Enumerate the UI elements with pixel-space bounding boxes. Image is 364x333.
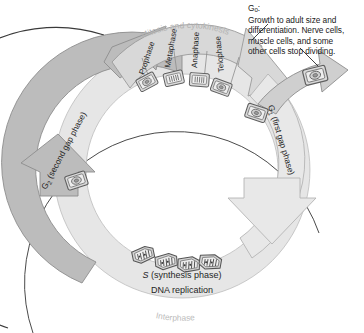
phase-label-anaphase: Anaphase xyxy=(190,31,201,68)
s-phase-rest: (synthesis phase) xyxy=(148,270,221,280)
g0-title-colon: : xyxy=(258,3,260,13)
dna-replication-label: DNA replication xyxy=(151,285,213,295)
g0-line-4: other cells stop dividing. xyxy=(248,46,364,56)
g0-title: G0: xyxy=(248,3,364,15)
s-phase-label: S (synthesis phase) xyxy=(142,270,221,280)
g0-line-2: differentiation. Nerve cells, xyxy=(248,25,364,35)
cell-anaphase-icon xyxy=(189,73,209,88)
g0-line-1: Growth to adult size and xyxy=(248,15,364,25)
interphase-label: Interphase xyxy=(155,310,195,323)
g0-description: G0: Growth to adult size and differentia… xyxy=(248,3,364,56)
cell-cycle-diagram: Mitosis and cytokinesis Interphase Proph… xyxy=(0,0,364,333)
g0-line-3: muscle cells, and some xyxy=(248,36,364,46)
